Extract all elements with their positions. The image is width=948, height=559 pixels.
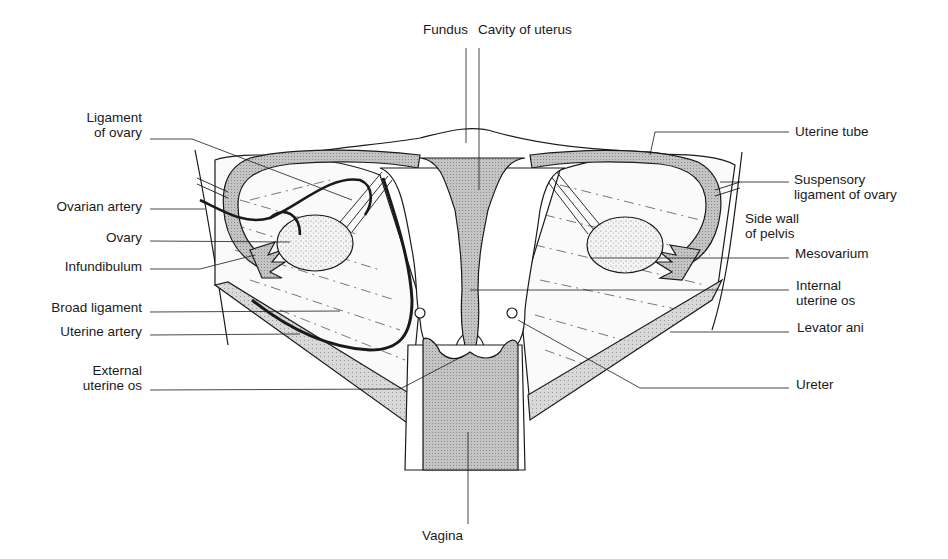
label-broad-ligament: Broad ligament bbox=[51, 300, 142, 315]
label-internal-uterine-os: Internal uterine os bbox=[796, 278, 855, 308]
label-side-wall-of-pelvis: Side wall of pelvis bbox=[745, 211, 799, 241]
label-uterine-tube: Uterine tube bbox=[795, 124, 869, 139]
left-ovary bbox=[277, 215, 353, 271]
label-infundibulum: Infundibulum bbox=[65, 259, 142, 274]
label-levator-ani: Levator ani bbox=[797, 320, 864, 335]
label-external-uterine-os: External uterine os bbox=[83, 363, 142, 393]
left-ureter bbox=[415, 308, 425, 318]
vagina-lumen bbox=[423, 338, 518, 470]
label-vagina: Vagina bbox=[422, 528, 463, 543]
label-mesovarium: Mesovarium bbox=[795, 246, 869, 261]
label-uterine-artery: Uterine artery bbox=[60, 324, 142, 339]
right-broad-ligament bbox=[520, 154, 735, 405]
label-ureter: Ureter bbox=[796, 377, 834, 392]
right-ovary bbox=[587, 217, 663, 273]
label-fundus: Fundus bbox=[423, 22, 468, 37]
label-ligament-of-ovary: Ligament of ovary bbox=[86, 110, 142, 140]
label-ovary: Ovary bbox=[106, 230, 142, 245]
label-suspensory-ligament-of-ovary: Suspensory ligament of ovary bbox=[794, 172, 897, 202]
right-ureter bbox=[507, 308, 517, 318]
label-ovarian-artery: Ovarian artery bbox=[56, 199, 142, 214]
label-cavity-of-uterus: Cavity of uterus bbox=[478, 22, 572, 37]
